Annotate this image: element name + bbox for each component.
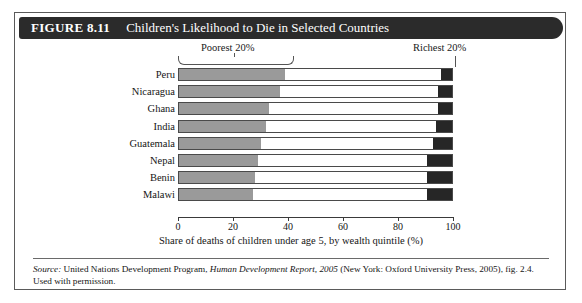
stacked-bar: [178, 154, 453, 167]
country-label: Nepal: [55, 153, 175, 168]
stacked-bar: [178, 68, 453, 81]
stacked-bar: [178, 120, 453, 133]
source-text-before: United Nations Development Program,: [61, 264, 210, 274]
bar-segment-poorest: [179, 138, 261, 149]
x-axis-tick-label: 80: [393, 221, 403, 232]
bar-segment-richest: [436, 121, 452, 132]
x-axis-tick-label: 100: [446, 221, 461, 232]
legend-label-poorest: Poorest 20%: [201, 42, 254, 53]
bar-segment-poorest: [179, 121, 266, 132]
source-label: Source:: [33, 264, 61, 274]
bar-segment-richest: [441, 69, 452, 80]
chart-row: Nicaragua: [15, 84, 567, 99]
stacked-bar: [178, 85, 453, 98]
bar-segment-richest: [433, 138, 452, 149]
figure-title-bar: FIGURE 8.11 Children's Likelihood to Die…: [19, 17, 563, 39]
stacked-bar: [178, 102, 453, 115]
legend-label-richest: Richest 20%: [413, 42, 466, 53]
bar-rows-container: PeruNicaraguaGhanaIndiaGuatemalaNepalBen…: [15, 67, 567, 217]
bar-segment-poorest: [179, 103, 269, 114]
country-label: Benin: [55, 170, 175, 185]
chart-row: Benin: [15, 170, 567, 185]
chart-row: Malawi: [15, 187, 567, 202]
bar-segment-middle: [285, 69, 441, 80]
x-axis-tick-label: 40: [283, 221, 293, 232]
bar-segment-poorest: [179, 69, 285, 80]
x-axis-tick-label: 0: [176, 221, 181, 232]
bar-segment-richest: [427, 172, 452, 183]
x-axis-line: [178, 217, 453, 218]
country-label: Guatemala: [55, 136, 175, 151]
x-axis-title: Share of deaths of children under age 5,…: [15, 235, 567, 246]
bar-segment-poorest: [179, 172, 255, 183]
chart-row: Ghana: [15, 101, 567, 116]
country-label: Ghana: [55, 101, 175, 116]
poorest-bracket: [178, 56, 294, 65]
richest-pointer-line: [455, 56, 456, 67]
source-divider: [33, 258, 549, 259]
bar-segment-richest: [427, 189, 452, 200]
x-axis-tick-label: 20: [228, 221, 238, 232]
chart-row: India: [15, 119, 567, 134]
bar-segment-middle: [266, 121, 435, 132]
bar-segment-poorest: [179, 155, 258, 166]
country-label: India: [55, 119, 175, 134]
bar-segment-middle: [280, 86, 438, 97]
bar-segment-poorest: [179, 189, 253, 200]
bar-segment-richest: [438, 103, 452, 114]
bar-segment-richest: [427, 155, 452, 166]
x-axis-tick-label: 60: [338, 221, 348, 232]
figure-card: FIGURE 8.11 Children's Likelihood to Die…: [14, 12, 566, 290]
bar-segment-poorest: [179, 86, 280, 97]
bar-segment-middle: [253, 189, 428, 200]
chart-row: Nepal: [15, 153, 567, 168]
bar-segment-middle: [258, 155, 427, 166]
bar-segment-middle: [269, 103, 438, 114]
source-italic-title: Human Development Report, 2005: [210, 264, 338, 274]
poorest-bracket-stem: [234, 53, 235, 57]
country-label: Peru: [55, 67, 175, 82]
figure-number: FIGURE 8.11: [31, 20, 110, 36]
country-label: Nicaragua: [55, 84, 175, 99]
chart-plot-area: Poorest 20% Richest 20% PeruNicaraguaGha…: [15, 39, 567, 254]
chart-row: Guatemala: [15, 136, 567, 151]
stacked-bar: [178, 137, 453, 150]
chart-row: Peru: [15, 67, 567, 82]
country-label: Malawi: [55, 187, 175, 202]
stacked-bar: [178, 188, 453, 201]
figure-title: Children's Likelihood to Die in Selected…: [126, 20, 389, 36]
bar-segment-richest: [438, 86, 452, 97]
source-note: Source: United Nations Development Progr…: [33, 263, 553, 287]
bar-segment-middle: [255, 172, 427, 183]
bar-segment-middle: [261, 138, 433, 149]
stacked-bar: [178, 171, 453, 184]
